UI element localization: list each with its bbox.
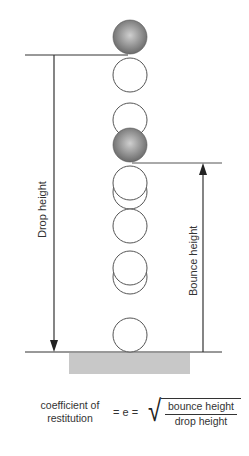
formula-lhs: coefficient of restitution	[34, 399, 106, 425]
trail-ball	[113, 251, 147, 285]
formula-lhs-line1: coefficient of	[34, 399, 106, 412]
formula-equals: = e =	[113, 406, 138, 418]
ball-drop-position	[113, 20, 147, 54]
formula-denominator: drop height	[161, 415, 241, 428]
trail-ball	[113, 318, 147, 352]
ball-bounce-position	[113, 128, 147, 162]
drop-height-arrow-icon	[50, 55, 58, 352]
formula-numerator: bounce height	[161, 398, 241, 413]
trail-ball	[113, 209, 147, 243]
bounce-height-arrow-icon	[199, 163, 207, 352]
trail-ball	[113, 58, 147, 92]
ground-slab	[69, 353, 190, 374]
square-root-icon: √	[148, 396, 161, 426]
formula-lhs-line2: restitution	[34, 412, 106, 425]
bounce-diagram: Drop height Bounce height	[0, 0, 249, 396]
formula-fraction: bounce height drop height	[161, 398, 241, 428]
drop-height-label: Drop height	[36, 181, 48, 238]
trail-ball	[113, 166, 147, 200]
ball-trail	[113, 58, 147, 352]
bounce-height-label: Bounce height	[187, 226, 199, 296]
restitution-formula: coefficient of restitution = e = √ bounc…	[0, 396, 249, 446]
